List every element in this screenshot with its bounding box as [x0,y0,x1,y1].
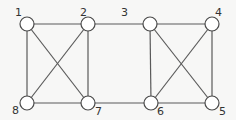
node-label-8: 8 [12,104,19,117]
node-label-7: 7 [95,105,102,118]
edges-group [27,24,212,103]
nodes-group [20,17,219,110]
node-3 [143,17,157,31]
node-5 [205,96,219,110]
graph-svg: 12345678 [0,0,236,120]
node-1 [20,17,34,31]
node-4 [205,17,219,31]
node-label-4: 4 [215,6,222,19]
node-label-1: 1 [15,6,22,19]
node-2 [81,17,95,31]
graph-diagram: 12345678 [0,0,236,120]
edge-3-6 [150,24,151,103]
node-label-5: 5 [219,105,226,118]
node-label-2: 2 [80,6,87,19]
node-label-6: 6 [157,105,164,118]
node-label-3: 3 [121,6,128,19]
node-7 [81,96,95,110]
labels-group: 12345678 [12,6,226,118]
node-8 [20,96,34,110]
node-6 [144,96,158,110]
